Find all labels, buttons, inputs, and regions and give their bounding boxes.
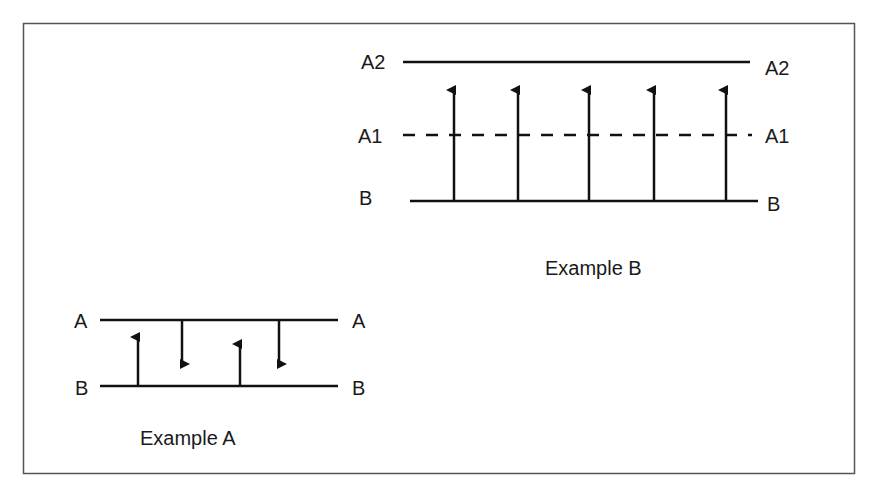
figure-border — [24, 24, 855, 474]
example-b: A2 A2 A1 A1 B B Example B — [358, 51, 789, 279]
level-a-right-label: A — [352, 310, 366, 332]
example-a: A A B B Example A — [74, 310, 366, 449]
level-a1-left-label: A1 — [358, 125, 382, 147]
level-b-left-label: B — [75, 377, 88, 399]
level-b-left-label: B — [359, 187, 372, 209]
level-a1-right-label: A1 — [765, 125, 789, 147]
example-a-caption: Example A — [140, 427, 236, 449]
example-b-caption: Example B — [545, 257, 642, 279]
level-a2-right-label: A2 — [765, 57, 789, 79]
level-a2-left-label: A2 — [361, 51, 385, 73]
level-b-right-label: B — [767, 193, 780, 215]
level-b-right-label: B — [352, 377, 365, 399]
level-a-left-label: A — [74, 310, 88, 332]
diagram-canvas: A2 A2 A1 A1 B B Example B A A B B Exampl… — [0, 0, 871, 492]
